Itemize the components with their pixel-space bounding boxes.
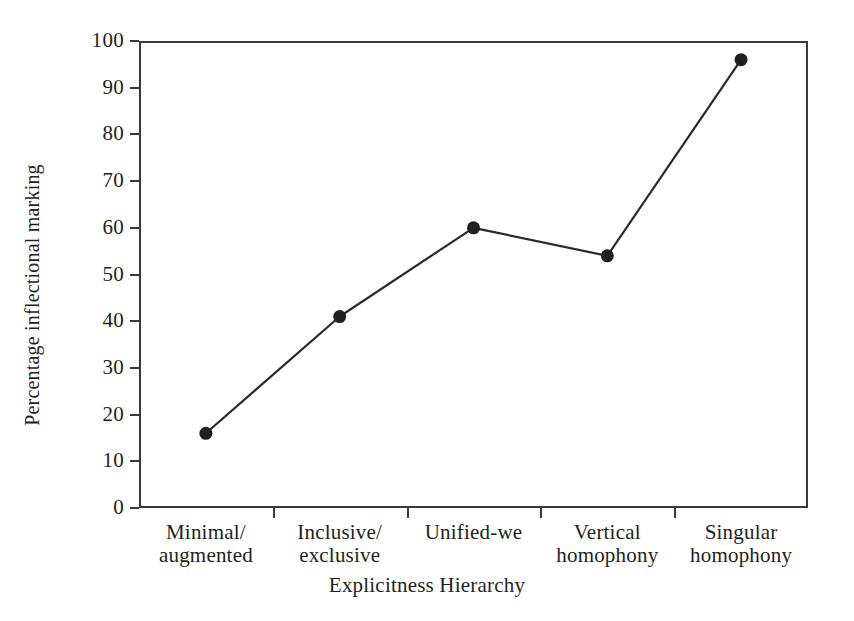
x-axis-tick (674, 508, 676, 518)
y-axis-tick (130, 367, 139, 369)
x-axis-category-label: Singularhomophony (690, 521, 792, 567)
x-axis-category-label: Minimal/augmented (159, 521, 253, 567)
y-axis-tick-label: 30 (68, 357, 124, 378)
y-axis-tick-label: 10 (68, 450, 124, 471)
data-series-line (139, 41, 808, 508)
y-axis-tick-label: 20 (68, 404, 124, 425)
series-polyline (206, 60, 741, 434)
y-axis-tick-label: 50 (68, 264, 124, 285)
y-axis-tick-label: 40 (68, 310, 124, 331)
x-axis-category-label: Inclusive/exclusive (297, 521, 382, 567)
chart-figure: 0102030405060708090100 Minimal/augmented… (0, 0, 854, 621)
y-axis-tick (130, 507, 139, 509)
data-point-marker (467, 221, 480, 234)
y-axis-tick (130, 320, 139, 322)
data-point-marker (199, 427, 212, 440)
y-axis-tick-label: 100 (68, 30, 124, 51)
x-axis-tick (407, 508, 409, 518)
x-axis-title: Explicitness Hierarchy (0, 573, 854, 598)
series-markers (199, 53, 747, 440)
y-axis-tick-label: 80 (68, 123, 124, 144)
y-axis-tick-label: 90 (68, 77, 124, 98)
y-axis-tick (130, 180, 139, 182)
data-point-marker (735, 53, 748, 66)
y-axis-tick (130, 460, 139, 462)
y-axis-tick (130, 414, 139, 416)
y-axis-title: Percentage inflectional marking (21, 62, 51, 529)
y-axis-tick-label: 60 (68, 217, 124, 238)
y-axis-tick-label: 70 (68, 170, 124, 191)
y-axis-tick (130, 87, 139, 89)
y-axis-tick-label: 0 (68, 497, 124, 518)
x-axis-tick (540, 508, 542, 518)
y-axis-tick (130, 40, 139, 42)
x-axis-category-label: Unified-we (425, 521, 523, 544)
data-point-marker (333, 310, 346, 323)
y-axis-tick (130, 133, 139, 135)
y-axis-tick (130, 227, 139, 229)
data-point-marker (601, 249, 614, 262)
x-axis-tick (273, 508, 275, 518)
y-axis-tick (130, 274, 139, 276)
x-axis-category-label: Verticalhomophony (556, 521, 658, 567)
